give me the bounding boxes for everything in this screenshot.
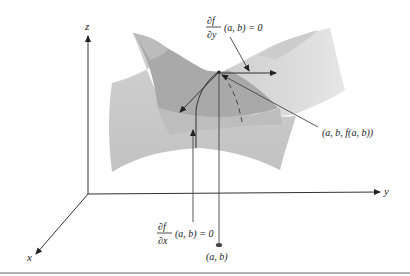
y-axis-label: y	[383, 185, 389, 197]
partial-x-annotation: ∂f ∂x (a, b) = 0	[157, 221, 213, 246]
partial-y-annotation: ∂f ∂y (a, b) = 0	[206, 15, 262, 40]
partial-y-denominator: ∂y	[207, 29, 217, 40]
partial-y-expression: (a, b) = 0	[224, 22, 262, 34]
x-axis-label: x	[26, 251, 32, 263]
y-axis	[88, 192, 380, 194]
z-axis-label: z	[84, 20, 90, 32]
partial-y-numerator: ∂f	[207, 15, 216, 26]
partial-x-denominator: ∂x	[158, 235, 168, 246]
x-axis	[36, 194, 88, 254]
surface-point-label: (a, b, f(a, b))	[322, 127, 374, 139]
saddle-point-diagram: z y x ∂f ∂y (a, b) = 0 ∂f ∂x (a, b) = 0 …	[0, 0, 410, 276]
ab-point-dot	[216, 243, 222, 247]
partial-x-numerator: ∂f	[158, 221, 167, 232]
saddle-point-dot	[217, 70, 220, 73]
plane-point-label: (a, b)	[206, 251, 228, 263]
partial-x-expression: (a, b) = 0	[175, 228, 213, 240]
